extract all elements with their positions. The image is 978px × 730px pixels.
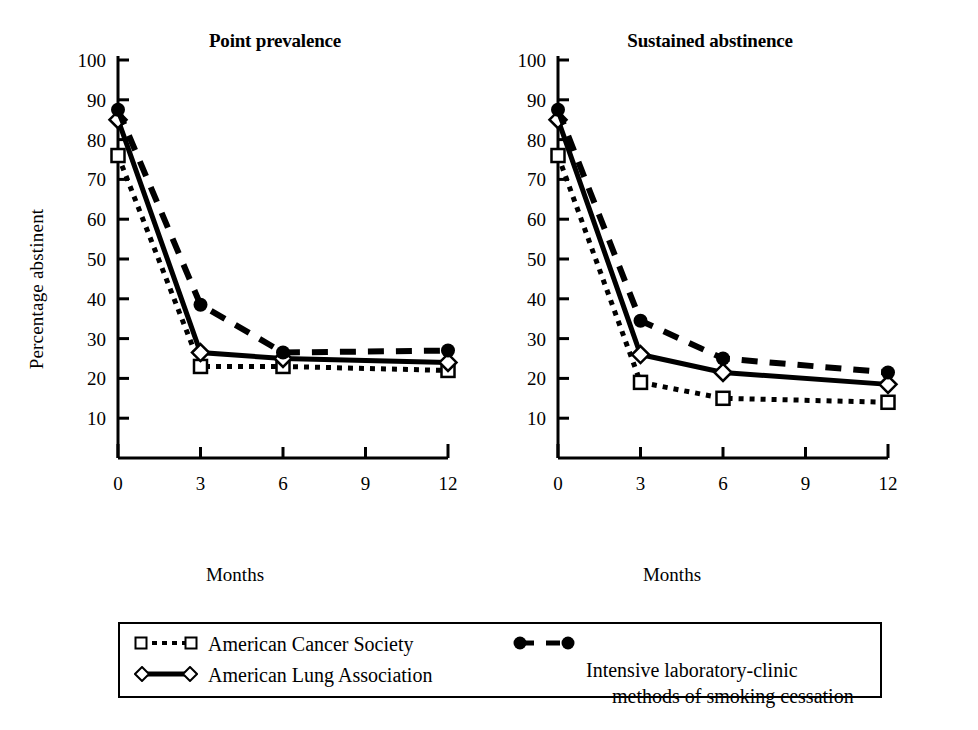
y-tick-label: 70: [87, 169, 106, 190]
series-line: [558, 110, 888, 373]
open-square-dotted-line-icon: [134, 635, 198, 655]
series-line: [118, 120, 448, 363]
x-axis-title-right: Months: [502, 564, 842, 586]
x-tick-label: 6: [718, 473, 728, 494]
series-line: [118, 110, 448, 353]
x-tick-label: 3: [636, 473, 646, 494]
legend-label-american-cancer-society: American Cancer Society: [208, 631, 413, 657]
plot-area-left: 102030405060708090100036912: [40, 30, 460, 550]
data-point-open-square: [717, 392, 730, 405]
data-point-open-diamond: [192, 344, 209, 361]
y-tick-label: 90: [527, 90, 546, 111]
panel-point-prevalence: Point prevalence 10203040506070809010003…: [40, 30, 460, 590]
x-axis-title-left: Months: [70, 564, 400, 586]
y-tick-label: 40: [87, 289, 106, 310]
legend-box: American Cancer Society American Lung As…: [118, 622, 882, 698]
x-tick-label: 0: [553, 473, 563, 494]
legend-label-line-2: methods of smoking cessation: [586, 683, 854, 709]
x-tick-label: 0: [113, 473, 123, 494]
data-point-filled-circle: [716, 352, 730, 366]
y-tick-label: 100: [78, 50, 107, 71]
y-tick-label: 100: [518, 50, 547, 71]
chart-svg-right: 102030405060708090100036912: [480, 30, 900, 550]
x-tick-label: 3: [196, 473, 206, 494]
y-tick-label: 30: [87, 329, 106, 350]
data-point-filled-circle: [441, 344, 455, 358]
y-tick-label: 90: [87, 90, 106, 111]
filled-circle-dashed-line-icon: [512, 635, 576, 655]
data-point-open-square: [552, 149, 565, 162]
y-tick-label: 80: [87, 130, 106, 151]
data-point-filled-circle: [111, 103, 125, 117]
series-right-1: [550, 111, 897, 393]
y-tick-label: 50: [527, 249, 546, 270]
x-tick-label: 9: [801, 473, 811, 494]
data-point-open-diamond: [715, 364, 732, 381]
legend-label-line-1: Intensive laboratory-clinic: [586, 659, 798, 681]
data-point-filled-circle: [551, 103, 565, 117]
open-diamond-solid-line-icon: [134, 666, 198, 686]
chart-svg-left: 102030405060708090100036912: [40, 30, 460, 550]
y-tick-label: 60: [87, 209, 106, 230]
series-left-1: [110, 111, 457, 371]
y-tick-label: 50: [87, 249, 106, 270]
plot-area-right: 102030405060708090100036912: [480, 30, 900, 550]
legend-entry-american-lung-association: American Lung Association: [134, 662, 432, 688]
y-tick-label: 10: [87, 408, 106, 429]
legend-entry-intensive-laboratory-clinic: Intensive laboratory-clinic methods of s…: [512, 631, 854, 730]
x-tick-label: 6: [278, 473, 288, 494]
x-tick-label: 12: [879, 473, 898, 494]
legend-entry-american-cancer-society: American Cancer Society: [134, 631, 413, 657]
y-tick-label: 10: [527, 408, 546, 429]
data-point-filled-circle: [276, 346, 290, 360]
data-point-open-square: [112, 149, 125, 162]
x-axis-ticks-right: 036912: [553, 444, 897, 494]
series-line: [558, 120, 888, 385]
panel-sustained-abstinence: Sustained abstinence 1020304050607080901…: [480, 30, 900, 590]
x-tick-label: 12: [439, 473, 458, 494]
x-axis-ticks-left: 036912: [113, 444, 457, 494]
data-point-filled-circle: [634, 314, 648, 328]
y-tick-label: 40: [527, 289, 546, 310]
legend-label-intensive-laboratory-clinic: Intensive laboratory-clinic methods of s…: [586, 631, 854, 730]
data-point-open-square: [882, 396, 895, 409]
y-tick-label: 60: [527, 209, 546, 230]
y-tick-label: 70: [527, 169, 546, 190]
series-left-2: [111, 103, 455, 360]
data-point-open-diamond: [632, 346, 649, 363]
legend-label-american-lung-association: American Lung Association: [208, 662, 432, 688]
y-tick-label: 30: [527, 329, 546, 350]
data-point-open-square: [634, 376, 647, 389]
series-left-0: [112, 149, 455, 377]
data-point-filled-circle: [881, 365, 895, 379]
y-tick-label: 20: [527, 368, 546, 389]
data-point-filled-circle: [194, 298, 208, 312]
y-tick-label: 20: [87, 368, 106, 389]
y-tick-label: 80: [527, 130, 546, 151]
x-tick-label: 9: [361, 473, 371, 494]
figure-root: Percentage abstinent Point prevalence 10…: [0, 0, 978, 730]
